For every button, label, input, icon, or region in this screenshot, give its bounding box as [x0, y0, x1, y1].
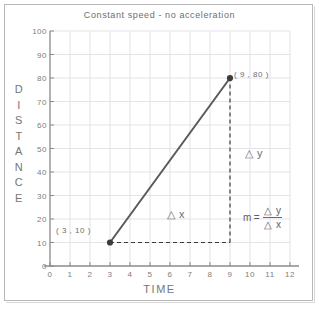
data-point-label-low: ( 3 , 10 ): [56, 226, 91, 235]
x-axis-tick-labels: 0123456789101112: [50, 270, 290, 282]
x-tick-label: 8: [202, 270, 218, 279]
x-tick-label: 5: [142, 270, 158, 279]
y-tick-label: 60: [25, 121, 47, 130]
x-tick-label: 4: [122, 270, 138, 279]
y-tick-label: 90: [25, 50, 47, 59]
chart-title: Constant speed - no acceleration: [0, 10, 319, 20]
y-tick-label: 50: [25, 144, 47, 153]
x-axis-title: TIME: [0, 283, 319, 295]
slope-equals-sign: =: [254, 212, 260, 223]
x-tick-label: 2: [82, 270, 98, 279]
x-tick-label: 12: [282, 270, 298, 279]
y-tick-label: 100: [25, 27, 47, 36]
data-point-marker: [107, 239, 113, 245]
delta-y-label: △ y: [245, 147, 263, 160]
x-tick-label: 10: [242, 270, 258, 279]
y-tick-label: 10: [25, 238, 47, 247]
delta-x-label: △ x: [167, 208, 185, 221]
x-tick-label: 0: [42, 270, 58, 279]
y-tick-label: 30: [25, 191, 47, 200]
x-tick-label: 7: [182, 270, 198, 279]
y-tick-label: 80: [25, 74, 47, 83]
x-tick-label: 3: [102, 270, 118, 279]
y-tick-label: 70: [25, 97, 47, 106]
x-tick-label: 11: [262, 270, 278, 279]
y-tick-label: 20: [25, 215, 47, 224]
chart-figure: Constant speed - no acceleration D I S T…: [0, 0, 319, 309]
slope-fraction: △ y △ x: [263, 205, 282, 230]
data-point-marker: [227, 75, 233, 81]
slope-variable: m: [243, 212, 252, 223]
x-tick-label: 1: [62, 270, 78, 279]
y-tick-label: 40: [25, 168, 47, 177]
slope-formula: m = △ y △ x: [243, 205, 282, 230]
data-point-label-high: ( 9 , 80 ): [234, 70, 269, 79]
slope-numerator: △ y: [263, 205, 282, 218]
slope-denominator: △ x: [264, 218, 281, 230]
y-axis-tick-labels: 0102030405060708090100: [22, 31, 47, 266]
x-tick-label: 6: [162, 270, 178, 279]
x-tick-label: 9: [222, 270, 238, 279]
